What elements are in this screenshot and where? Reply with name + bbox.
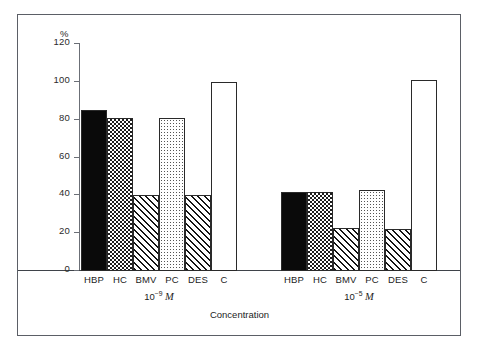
bar-bmv-group1 [133,195,159,271]
bar-pc-group1 [159,118,185,271]
x-tick-label-c-group1: C [211,274,237,285]
x-tick-label-bmv-group1: BMV [133,274,159,285]
x-tick-label-pc-group1: PC [159,274,185,285]
bar-hbp-group1 [81,110,107,271]
x-tick-label-hc-group2: HC [307,274,333,285]
x-tick-label-hbp-group2: HBP [281,274,307,285]
x-axis-title: Concentration [0,309,479,320]
x-tick-label-pc-group2: PC [359,274,385,285]
bar-des-group1 [185,195,211,271]
bar-hc-group1 [107,118,133,271]
x-tick-label-des-group2: DES [385,274,411,285]
bar-hbp-group2 [281,192,307,271]
bars-layer [0,0,479,271]
x-tick-label-des-group1: DES [185,274,211,285]
bar-chart: % 020406080100120 HBPHCBMVPCDESCHBPHCBMV… [0,0,479,354]
group-label-1: 10−9 M [81,291,237,302]
x-tick-label-hc-group1: HC [107,274,133,285]
group-label-2: 10−5 M [281,291,437,302]
bar-des-group2 [385,229,411,271]
x-tick-label-hbp-group1: HBP [81,274,107,285]
bar-c-group1 [211,82,237,271]
x-tick-label-bmv-group2: BMV [333,274,359,285]
bar-c-group2 [411,80,437,271]
bar-pc-group2 [359,190,385,271]
bar-bmv-group2 [333,228,359,272]
x-tick-label-c-group2: C [411,274,437,285]
bar-hc-group2 [307,192,333,271]
